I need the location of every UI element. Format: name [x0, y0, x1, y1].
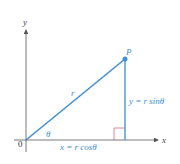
point-p: [123, 57, 128, 62]
origin-label: 0: [18, 139, 23, 149]
angle-label: θ: [46, 129, 51, 139]
point-label: P: [125, 47, 132, 57]
radius-line: [26, 59, 125, 140]
radius-label: r: [71, 88, 75, 98]
right-angle-marker: [114, 128, 125, 140]
polar-diagram: y x 0 P r θ x = r cosθ y = r sinθ: [0, 0, 180, 164]
x-equation-label: x = r cosθ: [59, 142, 97, 152]
y-axis-label: y: [22, 17, 27, 27]
x-axis-label: x: [161, 135, 166, 145]
y-equation-label: y = r sinθ: [128, 96, 165, 106]
